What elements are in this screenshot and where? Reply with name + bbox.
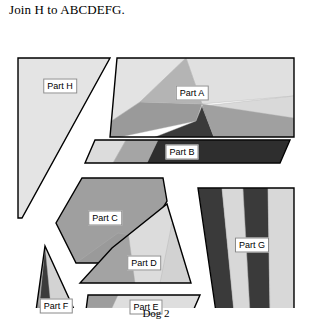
g-stripe-4-light bbox=[268, 188, 294, 308]
part-label-a: Part A bbox=[176, 86, 209, 101]
part-label-h: Part H bbox=[43, 79, 77, 94]
figure-caption: Dog 2 bbox=[0, 307, 312, 319]
part-label-b: Part B bbox=[165, 145, 198, 160]
part-label-c: Part C bbox=[88, 211, 122, 226]
parts-layer bbox=[18, 58, 294, 308]
part-label-g: Part G bbox=[235, 238, 269, 253]
instruction-text: Join H to ABCDEFG. bbox=[9, 2, 125, 18]
part-label-d: Part D bbox=[127, 256, 161, 271]
worksheet-page: Join H to ABCDEFG. Part APart BPart CPar… bbox=[0, 0, 312, 326]
